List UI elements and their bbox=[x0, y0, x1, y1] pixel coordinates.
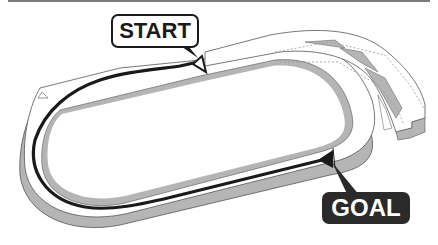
start-label: START bbox=[111, 14, 199, 48]
goal-label: GOAL bbox=[322, 192, 410, 224]
